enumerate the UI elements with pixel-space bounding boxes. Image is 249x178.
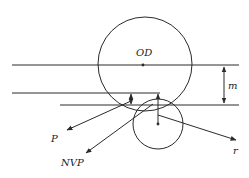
p-label: P	[50, 133, 58, 144]
optic-disc-center-dot	[142, 64, 145, 67]
nvp-arrow	[86, 104, 153, 153]
m-label: m	[228, 80, 237, 91]
r-arrow	[158, 115, 236, 140]
od-label: OD	[136, 47, 152, 58]
r-label: r	[233, 145, 239, 156]
optic-disc-diagram: OD m P NVP r	[0, 0, 249, 178]
nvp-label: NVP	[60, 157, 84, 168]
optic-disc-circle	[98, 17, 192, 111]
